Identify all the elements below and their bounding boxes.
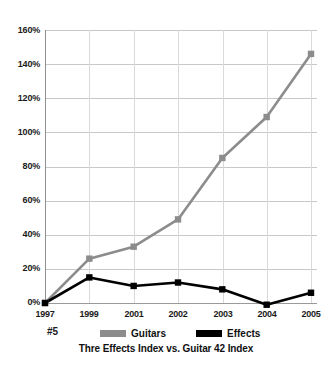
legend-label-effects: Effects bbox=[227, 328, 260, 339]
gridline-zero-baseline bbox=[45, 303, 317, 304]
chart-caption: Thre Effects Index vs. Guitar 42 Index bbox=[0, 343, 332, 354]
gridline-160 bbox=[45, 30, 317, 31]
y-axis-tick-20: 20% bbox=[2, 264, 40, 273]
y-axis-tick-80: 80% bbox=[2, 162, 40, 171]
y-axis-tick-140: 140% bbox=[2, 60, 40, 69]
plot-area bbox=[45, 30, 317, 303]
y-axis-tick-120: 120% bbox=[2, 94, 40, 103]
gridline-80 bbox=[45, 167, 317, 168]
chart-container: 160% 140% 120% 100% 80% 60% 40% 20% 0% 1… bbox=[0, 0, 332, 371]
y-axis-line bbox=[45, 30, 46, 303]
y-axis-tick-40: 40% bbox=[2, 230, 40, 239]
y-axis-tick-60: 60% bbox=[2, 196, 40, 205]
gridline-60 bbox=[45, 201, 317, 202]
y-axis-tick-0: 0% bbox=[2, 298, 40, 307]
x-axis-tick-2001: 2001 bbox=[112, 309, 156, 319]
legend-swatch-guitars bbox=[100, 330, 126, 337]
legend-label-guitars: Guitars bbox=[131, 328, 166, 339]
x-axis-tick-1999: 1999 bbox=[67, 309, 111, 319]
gridline-20 bbox=[45, 269, 317, 270]
vgridline-2003 bbox=[223, 30, 224, 303]
legend-entry-effects: Effects bbox=[196, 326, 260, 340]
x-axis-tick-2003: 2003 bbox=[201, 309, 245, 319]
x-axis-tick-2002: 2002 bbox=[156, 309, 200, 319]
x-axis-tick-1997: 1997 bbox=[23, 309, 67, 319]
y-axis-tick-160: 160% bbox=[2, 26, 40, 35]
legend-swatch-effects bbox=[196, 330, 222, 337]
y-axis-tick-100: 100% bbox=[2, 128, 40, 137]
x-axis-tick-2005: 2005 bbox=[289, 309, 332, 319]
legend-entry-guitars: Guitars bbox=[100, 326, 166, 340]
chart-legend: Guitars Effects bbox=[0, 326, 332, 341]
vgridline-2002 bbox=[178, 30, 179, 303]
vgridline-2004 bbox=[267, 30, 268, 303]
x-axis-tick-2004: 2004 bbox=[245, 309, 289, 319]
gridline-140 bbox=[45, 64, 317, 65]
vgridline-2005 bbox=[311, 30, 312, 303]
gridline-120 bbox=[45, 98, 317, 99]
vgridline-2001 bbox=[134, 30, 135, 303]
gridline-40 bbox=[45, 235, 317, 236]
gridline-100 bbox=[45, 132, 317, 133]
vgridline-1999 bbox=[89, 30, 90, 303]
